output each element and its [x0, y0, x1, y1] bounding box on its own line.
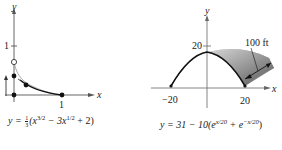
y-axis-label: y [12, 2, 16, 12]
x-tick-label: 1 [59, 100, 64, 110]
curve-thick [20, 80, 62, 95]
figure-left: y x 1 1 y = 13(x3/2 − 3x1/2 + 2) [0, 0, 141, 150]
x-axis-arrow-icon [264, 86, 271, 90]
y-tick-label: 1 [4, 41, 9, 51]
fraction: 13 [25, 115, 28, 128]
equation-caption: y = 13(x3/2 − 3x1/2 + 2) [8, 115, 94, 128]
dimension-label: 100 ft [245, 38, 269, 48]
y-tick-label: 20 [192, 41, 202, 51]
x-axis-label: x [272, 84, 276, 94]
x-axis-label: x [97, 90, 101, 100]
x-tick-label-neg: −20 [162, 95, 178, 105]
open-point [11, 59, 16, 64]
x-axis-arrow-icon [88, 93, 95, 97]
up-arrow-icon [4, 75, 8, 80]
filled-point [60, 93, 65, 98]
filled-point [12, 74, 17, 79]
filled-point [24, 83, 29, 88]
x-tick-label-pos: 20 [240, 96, 250, 106]
y-axis-label: y [205, 6, 209, 16]
equation-caption: y = 31 − 10(ex/20 + e−x/20) [160, 119, 262, 130]
figure-right: y x 20 −20 20 100 ft y = 31 − 10(ex/20 +… [141, 0, 282, 150]
filled-point [12, 93, 17, 98]
